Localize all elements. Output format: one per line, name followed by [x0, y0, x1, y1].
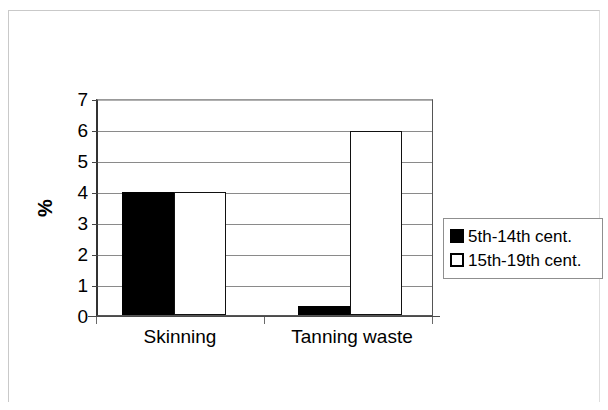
legend-label-15th-19th-cent: 15th-19th cent. [468, 252, 581, 269]
y-tick-label-5: 5 [56, 152, 88, 171]
bar-tanning-waste-5th-14th-cent [298, 306, 350, 315]
legend-label-5th-14th-cent: 5th-14th cent. [468, 228, 572, 245]
x-category-label-skinning: Skinning [112, 327, 248, 348]
scanned-page: % 7 6 5 4 3 2 1 0 [0, 0, 608, 410]
y-tick-mark-7 [92, 100, 98, 101]
y-tick-label-7: 7 [56, 90, 88, 109]
bar-tanning-waste-15th-19th-cent [350, 131, 402, 315]
y-tick-label-0: 0 [56, 307, 88, 326]
chart-legend: 5th-14th cent. 15th-19th cent. [443, 218, 603, 279]
y-tick-mark-5 [92, 162, 98, 163]
y-tick-label-2: 2 [56, 245, 88, 264]
y-tick-mark-2 [92, 255, 98, 256]
y-tick-label-6: 6 [56, 121, 88, 140]
y-tick-mark-3 [92, 224, 98, 225]
bar-skinning-5th-14th-cent [122, 192, 174, 315]
x-category-label-tanning-waste: Tanning waste [272, 327, 432, 348]
y-axis-tick-labels: 7 6 5 4 3 2 1 0 [56, 99, 88, 316]
legend-entry-5th-14th-cent: 5th-14th cent. [450, 224, 597, 248]
y-tick-label-1: 1 [56, 276, 88, 295]
y-tick-label-3: 3 [56, 214, 88, 233]
legend-swatch-filled-square-icon [450, 229, 464, 243]
legend-swatch-empty-square-icon [450, 253, 464, 267]
legend-entry-15th-19th-cent: 15th-19th cent. [450, 248, 597, 272]
gridline-7 [98, 100, 432, 101]
x-tick-mark-middle [264, 317, 265, 324]
bar-chart-figure: % 7 6 5 4 3 2 1 0 [0, 0, 608, 410]
x-tick-mark-end [432, 317, 433, 324]
x-tick-mark-start [96, 317, 97, 324]
y-tick-label-4: 4 [56, 183, 88, 202]
y-tick-mark-4 [92, 193, 98, 194]
bar-skinning-15th-19th-cent [174, 192, 226, 315]
y-tick-mark-1 [92, 286, 98, 287]
plot-area [96, 99, 433, 316]
y-tick-mark-6 [92, 131, 98, 132]
